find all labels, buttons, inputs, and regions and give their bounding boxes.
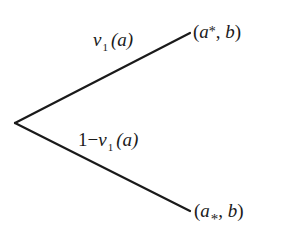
upper-probability-label: ν1(a) xyxy=(93,30,133,49)
one-minus-prefix: 1− xyxy=(78,129,98,150)
subscript: 1 xyxy=(108,141,114,153)
lower-outcome-label: (a*, b) xyxy=(194,201,244,220)
subscript: 1 xyxy=(102,41,108,53)
comma: , xyxy=(216,21,221,42)
close-paren: ) xyxy=(235,21,241,42)
var-b: b xyxy=(225,21,235,42)
nu-symbol: ν xyxy=(98,129,106,150)
upper-outcome-label: (a*, b) xyxy=(193,22,241,41)
comma: , xyxy=(218,200,223,221)
argument: (a) xyxy=(111,29,133,50)
var-a: a xyxy=(199,21,209,42)
tree-branches xyxy=(0,0,291,246)
superscript-star: * xyxy=(209,24,216,39)
var-b: b xyxy=(228,200,238,221)
close-paren: ) xyxy=(237,200,243,221)
probability-tree-diagram: ν1(a) (a*, b) 1−ν1(a) (a*, b) xyxy=(0,0,291,246)
subscript-star: * xyxy=(211,211,219,227)
var-a: a xyxy=(200,200,210,221)
lower-probability-label: 1−ν1(a) xyxy=(78,130,138,149)
argument: (a) xyxy=(116,129,138,150)
nu-symbol: ν xyxy=(93,29,101,50)
